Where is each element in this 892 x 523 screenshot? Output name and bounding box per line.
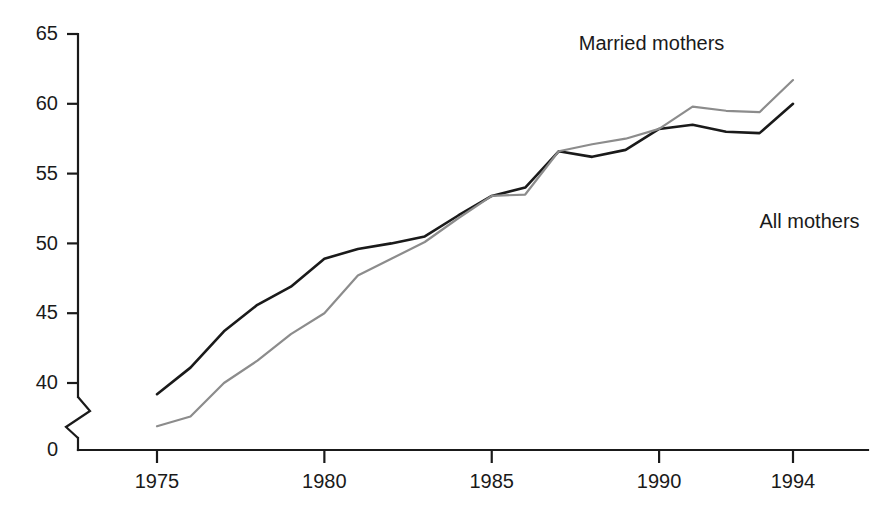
y-tick-label: 40 <box>36 371 58 393</box>
y-tick-label: 60 <box>36 92 58 114</box>
series-line-married-mothers <box>157 80 793 426</box>
y-axis: 0404550556065 <box>36 22 90 460</box>
series-annotations: All mothersMarried mothers <box>579 32 860 231</box>
x-tick-label: 1975 <box>135 470 180 492</box>
y-tick-label: 50 <box>36 232 58 254</box>
y-tick-label: 0 <box>47 438 58 460</box>
series-lines <box>157 80 793 426</box>
y-tick-label: 65 <box>36 22 58 44</box>
series-label-married-mothers: Married mothers <box>579 32 725 54</box>
series-line-all-mothers <box>157 104 793 394</box>
x-tick-label: 1985 <box>469 470 514 492</box>
x-tick-label: 1990 <box>637 470 682 492</box>
x-tick-label: 1994 <box>771 470 816 492</box>
line-chart: 0404550556065 19751980198519901994 All m… <box>0 0 892 523</box>
x-tick-label: 1980 <box>302 470 347 492</box>
y-tick-label: 55 <box>36 162 58 184</box>
y-tick-label: 45 <box>36 301 58 323</box>
series-label-all-mothers: All mothers <box>760 210 860 232</box>
x-axis: 19751980198519901994 <box>78 450 868 492</box>
chart-container: 0404550556065 19751980198519901994 All m… <box>0 0 892 523</box>
